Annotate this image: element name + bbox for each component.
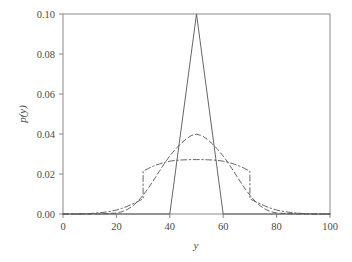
x-tick-label: 60: [218, 221, 229, 232]
x-axis-tick-labels: 020406080100: [60, 221, 338, 232]
x-tick-label: 80: [271, 221, 282, 232]
series-triangular: [63, 14, 330, 214]
y-axis-tick-labels: 0.000.020.040.060.080.10: [37, 9, 56, 220]
x-tick-label: 40: [165, 221, 176, 232]
x-axis-ticks: [63, 214, 330, 218]
series-flat-top-mixture: [63, 160, 330, 214]
y-axis-ticks: [59, 14, 63, 214]
x-axis-title: y: [193, 239, 199, 251]
y-tick-label: 0.10: [37, 9, 55, 20]
y-axis-title: p(y): [16, 105, 29, 124]
chart-canvas: 020406080100 0.000.020.040.060.080.10 y …: [0, 0, 352, 262]
x-tick-label: 100: [322, 221, 338, 232]
y-tick-label: 0.02: [37, 169, 55, 180]
data-series-group: [63, 14, 330, 214]
y-tick-label: 0.00: [37, 209, 55, 220]
axes-frame: [63, 14, 330, 214]
y-tick-label: 0.06: [37, 89, 55, 100]
series-gaussian: [63, 134, 330, 214]
y-tick-label: 0.04: [37, 129, 56, 140]
y-tick-label: 0.08: [37, 49, 55, 60]
x-tick-label: 20: [111, 221, 122, 232]
figure: 020406080100 0.000.020.040.060.080.10 y …: [0, 0, 352, 262]
plot-frame: [63, 14, 330, 214]
x-tick-label: 0: [60, 221, 65, 232]
